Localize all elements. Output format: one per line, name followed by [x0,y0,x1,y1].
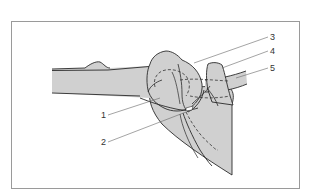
label-1: 1 [101,111,106,120]
shoulder-diagram [0,0,312,193]
label-2: 2 [101,138,106,147]
label-3: 3 [270,33,275,42]
label-5: 5 [270,64,275,73]
label-4: 4 [270,47,275,56]
